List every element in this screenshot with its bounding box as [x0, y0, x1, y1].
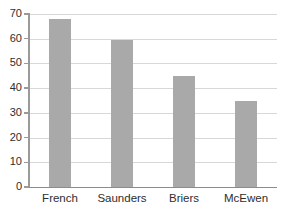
y-axis-tick-label: 50: [0, 57, 22, 68]
bar: [49, 19, 71, 187]
y-axis-tick-label: 30: [0, 107, 22, 118]
y-axis-tick-label: 0: [0, 181, 22, 192]
bar: [173, 76, 195, 187]
y-axis-tick-label: 70: [0, 8, 22, 19]
y-axis-tick-label: 20: [0, 132, 22, 143]
y-axis-tick-label: 10: [0, 156, 22, 167]
x-axis-tick-label: Saunders: [97, 192, 146, 204]
bar-chart: 010203040506070 FrenchSaundersBriersMcEw…: [0, 0, 281, 219]
x-axis-tick-label: Briers: [169, 192, 199, 204]
x-axis-tick-label: McEwen: [224, 192, 268, 204]
x-axis-tick-label: French: [42, 192, 78, 204]
y-axis-tick-label: 40: [0, 82, 22, 93]
bars-group: [29, 14, 277, 187]
bar: [235, 101, 257, 188]
y-axis-tick-label: 60: [0, 33, 22, 44]
bar: [111, 40, 133, 187]
